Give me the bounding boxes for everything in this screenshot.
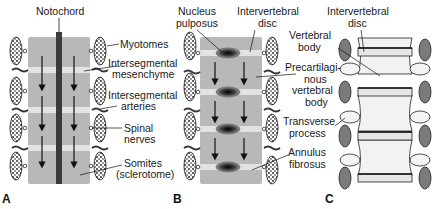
- vertebral-development-diagram: Notochord Myotomes Intersegmental mesenc…: [0, 0, 434, 209]
- label-transverse-process-line2: process: [289, 128, 326, 139]
- panel-letter-a: A: [2, 192, 11, 206]
- label-precartilaginous-line4: body: [305, 97, 328, 108]
- label-annulus-fibrosus-line1: Annulus: [288, 147, 326, 158]
- label-vertebral-body-line2: body: [298, 42, 321, 53]
- label-intersegmental-arteries-line2: arteries: [121, 101, 156, 112]
- label-precartilaginous-line1: Precartilagi-: [285, 62, 341, 73]
- label-spinal-nerves-line2: nerves: [124, 134, 156, 145]
- label-intervertebral-disc-b-line1: Intervertebral: [237, 6, 299, 17]
- panel-c-artwork: [335, 30, 431, 189]
- label-intervertebral-disc-c-line1: Intervertebral: [327, 6, 389, 17]
- label-nucleus-pulposus-line2: pulposus: [176, 18, 218, 29]
- label-somites-line2: (sclerotome): [116, 169, 174, 180]
- label-transverse-process-line1: Transverse: [283, 116, 335, 127]
- panel-letter-c: C: [325, 192, 334, 206]
- label-annulus-fibrosus-line2: fibrosus: [289, 159, 326, 170]
- label-intervertebral-disc-c-line2: disc: [348, 18, 367, 29]
- label-intersegmental-mesenchyme-line2: mesenchyme: [112, 69, 174, 80]
- panel-b-artwork: [184, 30, 296, 184]
- label-myotomes: Myotomes: [120, 39, 168, 50]
- notochord-a: [56, 32, 62, 184]
- panel-letter-b: B: [173, 192, 182, 206]
- diagram-artwork: [0, 0, 434, 209]
- panel-a-artwork: [10, 18, 122, 184]
- label-precartilaginous-line3: vertebral: [292, 85, 333, 96]
- label-intervertebral-disc-b-line2: disc: [258, 18, 277, 29]
- label-vertebral-body-line1: Vertebral: [289, 30, 331, 41]
- label-notochord: Notochord: [36, 6, 84, 17]
- label-nucleus-pulposus-line1: Nucleus: [178, 6, 216, 17]
